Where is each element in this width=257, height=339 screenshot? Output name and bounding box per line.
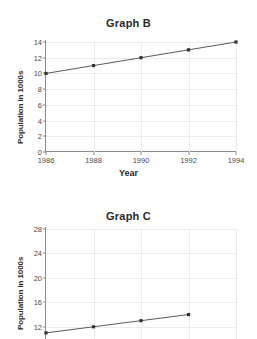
data-point-marker bbox=[44, 72, 47, 75]
chart-graph-b: Graph B Population in 1000s Year 0246810… bbox=[0, 0, 257, 184]
data-point-marker bbox=[92, 64, 95, 67]
data-point-marker bbox=[139, 319, 142, 322]
x-tick-mark bbox=[188, 152, 189, 155]
plot-area: 0246810121419861988199019921994 bbox=[46, 42, 236, 152]
plot-area: 1216202428 bbox=[46, 229, 236, 339]
data-point-marker bbox=[139, 56, 142, 59]
chart-title: Graph B bbox=[0, 17, 257, 29]
x-tick-label: 1986 bbox=[38, 156, 55, 165]
y-axis-label: Population in 1000s bbox=[16, 71, 25, 144]
y-tick-label: 24 bbox=[34, 249, 42, 258]
x-tick-label: 1994 bbox=[228, 156, 245, 165]
data-point-marker bbox=[44, 331, 47, 334]
y-tick-label: 12 bbox=[34, 322, 42, 331]
y-axis-label: Population in 1000s bbox=[16, 257, 25, 330]
x-tick-mark bbox=[46, 152, 47, 155]
x-tick-mark bbox=[93, 152, 94, 155]
y-tick-label: 14 bbox=[34, 38, 42, 47]
y-tick-label: 8 bbox=[38, 85, 42, 94]
series-layer bbox=[46, 229, 236, 339]
x-tick-label: 1992 bbox=[180, 156, 197, 165]
x-axis-label: Year bbox=[0, 168, 257, 178]
y-tick-label: 10 bbox=[34, 69, 42, 78]
y-tick-label: 2 bbox=[38, 132, 42, 141]
x-tick-label: 1990 bbox=[133, 156, 150, 165]
y-tick-label: 6 bbox=[38, 100, 42, 109]
data-point-marker bbox=[234, 40, 237, 43]
data-point-marker bbox=[187, 313, 190, 316]
x-tick-mark bbox=[141, 152, 142, 155]
gridline-vertical bbox=[236, 229, 237, 339]
chart-title: Graph C bbox=[0, 210, 257, 222]
x-tick-label: 1988 bbox=[85, 156, 102, 165]
data-point-marker bbox=[187, 48, 190, 51]
gridline-vertical bbox=[236, 42, 237, 152]
y-tick-label: 16 bbox=[34, 298, 42, 307]
series-layer bbox=[46, 42, 236, 152]
series-line bbox=[46, 315, 189, 333]
y-tick-label: 4 bbox=[38, 116, 42, 125]
data-point-marker bbox=[92, 325, 95, 328]
y-tick-label: 20 bbox=[34, 273, 42, 282]
y-tick-label: 28 bbox=[34, 225, 42, 234]
y-tick-label: 12 bbox=[34, 53, 42, 62]
x-tick-mark bbox=[236, 152, 237, 155]
